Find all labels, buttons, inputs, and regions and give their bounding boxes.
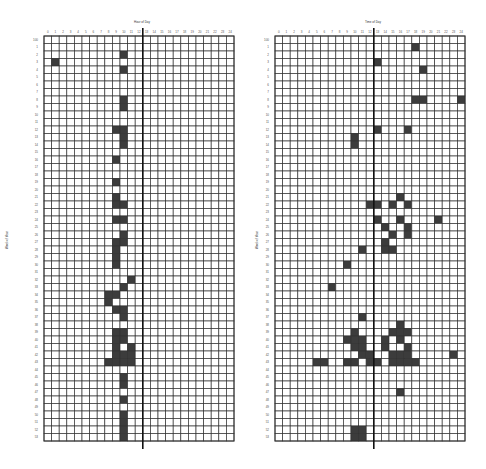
heatmap-cell xyxy=(389,396,397,404)
heatmap-cell xyxy=(366,126,374,134)
heatmap-cell xyxy=(328,171,336,179)
heatmap-cell xyxy=(336,216,344,224)
heatmap-cell xyxy=(150,36,158,44)
heatmap-cell xyxy=(328,321,336,329)
heatmap-cell xyxy=(290,359,298,367)
heatmap-cell xyxy=(82,254,90,262)
heatmap-cell xyxy=(381,284,389,292)
heatmap-cell xyxy=(219,186,227,194)
heatmap-cell xyxy=(196,171,204,179)
heatmap-cell xyxy=(52,419,60,427)
heatmap-cell xyxy=(389,171,397,179)
heatmap-cell xyxy=(105,434,113,442)
heatmap-cell xyxy=(359,134,367,142)
y-tick-label: 39 xyxy=(266,330,270,334)
heatmap-cell xyxy=(336,381,344,389)
heatmap-cell xyxy=(219,96,227,104)
heatmap-cell xyxy=(275,74,283,82)
heatmap-cell xyxy=(412,336,420,344)
y-tick-label: 48 xyxy=(35,398,39,402)
y-tick-label: 8 xyxy=(36,98,38,102)
heatmap-cell xyxy=(435,201,443,209)
heatmap-cell xyxy=(435,186,443,194)
heatmap-cell xyxy=(204,119,212,127)
y-tick-label: 4 xyxy=(36,68,38,72)
heatmap-cell xyxy=(404,366,412,374)
heatmap-cell xyxy=(211,336,219,344)
heatmap-cell xyxy=(82,419,90,427)
heatmap-cell xyxy=(457,254,465,262)
heatmap-cell xyxy=(336,81,344,89)
heatmap-cell xyxy=(427,419,435,427)
heatmap-cell xyxy=(298,194,306,202)
heatmap-cell xyxy=(90,66,98,74)
heatmap-cell xyxy=(188,366,196,374)
heatmap-cell xyxy=(90,179,98,187)
heatmap-cell xyxy=(404,134,412,142)
heatmap-cell xyxy=(427,239,435,247)
heatmap-cell-filled xyxy=(389,329,397,337)
heatmap-cell xyxy=(457,201,465,209)
heatmap-cell xyxy=(143,411,151,419)
heatmap-cell xyxy=(112,366,120,374)
heatmap-cell xyxy=(59,314,67,322)
heatmap-cell xyxy=(59,186,67,194)
heatmap-cell xyxy=(366,336,374,344)
heatmap-cell xyxy=(150,404,158,412)
heatmap-cell xyxy=(59,419,67,427)
heatmap-cell xyxy=(313,134,321,142)
heatmap-cell xyxy=(105,261,113,269)
heatmap-cell xyxy=(226,149,234,157)
y-tick-label: 27 xyxy=(35,240,39,244)
heatmap-cell xyxy=(404,404,412,412)
heatmap-cell-filled xyxy=(112,351,120,359)
heatmap-cell xyxy=(135,179,143,187)
heatmap-cell xyxy=(450,111,458,119)
heatmap-cell xyxy=(226,224,234,232)
y-tick-label: 21 xyxy=(35,195,39,199)
heatmap-cell xyxy=(44,321,52,329)
heatmap-cell xyxy=(59,321,67,329)
heatmap-cell xyxy=(290,321,298,329)
heatmap-cell xyxy=(52,344,60,352)
heatmap-cell xyxy=(283,74,291,82)
heatmap-cell xyxy=(336,291,344,299)
heatmap-cell xyxy=(188,44,196,52)
heatmap-cell xyxy=(328,404,336,412)
heatmap-cell xyxy=(59,201,67,209)
heatmap-cell xyxy=(404,306,412,314)
heatmap-cell xyxy=(359,194,367,202)
chart-canvas: Hour of Day Week of Year 012345678910111… xyxy=(0,0,486,469)
heatmap-cell xyxy=(120,36,128,44)
heatmap-cell xyxy=(435,419,443,427)
heatmap-cell xyxy=(442,329,450,337)
heatmap-cell xyxy=(52,104,60,112)
heatmap-cell xyxy=(359,36,367,44)
heatmap-cell xyxy=(67,111,75,119)
heatmap-cell xyxy=(44,351,52,359)
heatmap-cell xyxy=(120,209,128,217)
heatmap-cell xyxy=(74,134,82,142)
heatmap-cell xyxy=(404,209,412,217)
heatmap-cell xyxy=(211,66,219,74)
heatmap-cell xyxy=(328,381,336,389)
heatmap-cell xyxy=(343,66,351,74)
heatmap-cell xyxy=(275,246,283,254)
heatmap-cell xyxy=(196,411,204,419)
heatmap-cell xyxy=(343,134,351,142)
heatmap-cell-filled xyxy=(351,329,359,337)
heatmap-cell xyxy=(74,231,82,239)
heatmap-cell xyxy=(389,336,397,344)
heatmap-cell xyxy=(135,329,143,337)
heatmap-cell xyxy=(150,239,158,247)
heatmap-cell xyxy=(298,314,306,322)
heatmap-cell xyxy=(211,411,219,419)
heatmap-cell xyxy=(59,179,67,187)
heatmap-cell xyxy=(404,239,412,247)
heatmap-cell xyxy=(143,194,151,202)
heatmap-cell xyxy=(427,149,435,157)
heatmap-cell xyxy=(343,389,351,397)
heatmap-cell xyxy=(150,111,158,119)
heatmap-cell xyxy=(359,404,367,412)
heatmap-cell xyxy=(343,374,351,382)
